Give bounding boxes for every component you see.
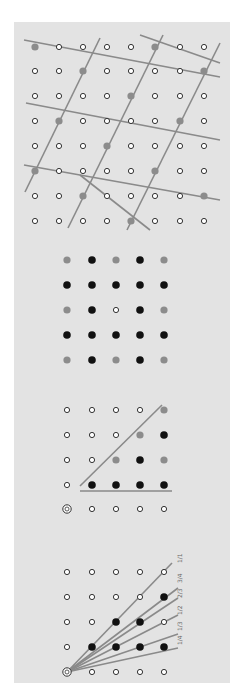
white-lattice-point <box>137 669 142 674</box>
white-lattice-point <box>56 143 61 148</box>
white-lattice-point <box>128 118 133 123</box>
lattice-diagram: 1/13/42/31/21/31/4 <box>0 0 233 697</box>
white-lattice-point <box>56 93 61 98</box>
lattice-line <box>80 405 162 486</box>
white-lattice-point <box>89 457 94 462</box>
slope-label: 1/1 <box>176 553 183 563</box>
white-lattice-point <box>56 44 61 49</box>
black-lattice-point <box>88 356 96 364</box>
black-lattice-point <box>136 331 144 339</box>
white-lattice-point <box>64 594 69 599</box>
black-lattice-point <box>112 618 120 626</box>
white-lattice-point <box>104 44 109 49</box>
black-lattice-point <box>136 306 144 314</box>
white-lattice-point <box>128 168 133 173</box>
white-lattice-point <box>32 143 37 148</box>
white-lattice-point <box>32 118 37 123</box>
lattice-line <box>67 634 178 672</box>
white-lattice-point <box>80 218 85 223</box>
white-lattice-point <box>64 407 69 412</box>
gray-lattice-point <box>160 256 167 263</box>
white-lattice-point <box>113 669 118 674</box>
white-lattice-point <box>128 44 133 49</box>
black-lattice-point <box>136 356 144 364</box>
lattice-line <box>24 40 220 77</box>
gray-lattice-point <box>112 456 119 463</box>
black-lattice-point <box>88 481 96 489</box>
black-lattice-point <box>160 481 168 489</box>
white-lattice-point <box>32 93 37 98</box>
lattice-line <box>26 103 220 140</box>
black-lattice-point <box>160 593 168 601</box>
white-lattice-point <box>80 168 85 173</box>
white-lattice-point <box>128 68 133 73</box>
white-lattice-point <box>104 68 109 73</box>
white-lattice-point <box>104 118 109 123</box>
white-lattice-point <box>177 193 182 198</box>
gray-lattice-point <box>31 43 38 50</box>
white-lattice-point <box>80 143 85 148</box>
gray-lattice-point <box>136 431 143 438</box>
white-lattice-point <box>161 619 166 624</box>
white-lattice-point <box>113 569 118 574</box>
white-lattice-point <box>104 168 109 173</box>
white-lattice-point <box>113 307 118 312</box>
slope-label: 1/3 <box>176 621 183 631</box>
white-lattice-point <box>80 118 85 123</box>
gray-lattice-point <box>200 192 207 199</box>
white-lattice-point <box>128 143 133 148</box>
white-lattice-point <box>201 118 206 123</box>
origin-point-outer <box>63 505 71 513</box>
white-lattice-point <box>137 594 142 599</box>
black-lattice-point <box>88 256 96 264</box>
black-lattice-point <box>136 256 144 264</box>
gray-lattice-point <box>103 142 110 149</box>
black-lattice-point <box>88 306 96 314</box>
white-lattice-point <box>177 68 182 73</box>
white-lattice-point <box>89 432 94 437</box>
lattice-line <box>24 165 220 200</box>
white-lattice-point <box>113 506 118 511</box>
white-lattice-point <box>80 44 85 49</box>
white-lattice-point <box>113 432 118 437</box>
white-lattice-point <box>64 569 69 574</box>
gray-lattice-point <box>200 67 207 74</box>
white-lattice-point <box>152 68 157 73</box>
gray-lattice-point <box>160 456 167 463</box>
gray-lattice-point <box>160 406 167 413</box>
white-lattice-point <box>89 407 94 412</box>
white-lattice-point <box>152 93 157 98</box>
white-lattice-point <box>128 193 133 198</box>
white-lattice-point <box>201 168 206 173</box>
white-lattice-point <box>201 93 206 98</box>
black-lattice-point <box>160 643 168 651</box>
gray-lattice-point <box>79 67 86 74</box>
white-lattice-point <box>64 482 69 487</box>
black-lattice-point <box>160 281 168 289</box>
black-lattice-point <box>88 331 96 339</box>
black-lattice-point <box>136 481 144 489</box>
white-lattice-point <box>137 407 142 412</box>
white-lattice-point <box>64 457 69 462</box>
gray-lattice-point <box>160 306 167 313</box>
origin-point-outer <box>63 668 71 676</box>
white-lattice-point <box>64 644 69 649</box>
white-lattice-point <box>201 44 206 49</box>
white-lattice-point <box>113 594 118 599</box>
lattice-line <box>67 598 178 672</box>
black-lattice-point <box>63 331 71 339</box>
white-lattice-point <box>177 44 182 49</box>
white-lattice-point <box>56 68 61 73</box>
white-lattice-point <box>56 168 61 173</box>
white-lattice-point <box>32 193 37 198</box>
black-lattice-point <box>136 456 144 464</box>
white-lattice-point <box>201 143 206 148</box>
black-lattice-point <box>112 481 120 489</box>
black-lattice-point <box>112 331 120 339</box>
slope-label: 1/2 <box>176 605 183 615</box>
white-lattice-point <box>64 432 69 437</box>
gray-lattice-point <box>112 256 119 263</box>
gray-lattice-point <box>127 92 134 99</box>
gray-lattice-point <box>160 356 167 363</box>
white-lattice-point <box>104 193 109 198</box>
